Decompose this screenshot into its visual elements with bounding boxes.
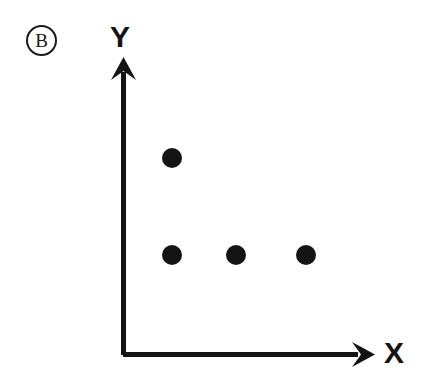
data-point bbox=[226, 245, 246, 265]
data-point bbox=[162, 148, 182, 168]
scatter-plot-graphic bbox=[0, 0, 430, 386]
data-point bbox=[162, 245, 182, 265]
data-point bbox=[296, 245, 316, 265]
x-axis-label: X bbox=[384, 338, 404, 368]
figure-panel: B Y X bbox=[0, 0, 430, 386]
y-axis-label: Y bbox=[110, 22, 130, 52]
data-point-group bbox=[162, 148, 316, 265]
